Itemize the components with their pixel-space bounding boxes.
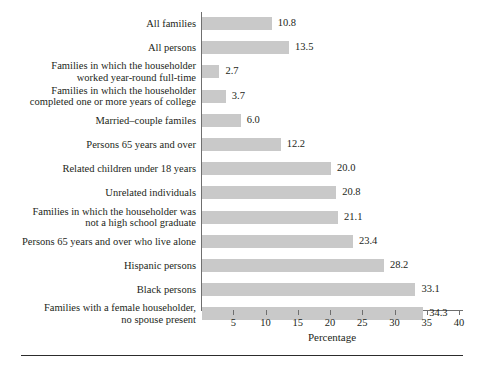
- bar-row: 20.8: [202, 186, 396, 199]
- bar-rect: [202, 17, 272, 30]
- bar-rect: [202, 283, 415, 296]
- x-tick-mark: [233, 310, 234, 315]
- plot-area: 10.813.52.73.76.012.220.020.821.123.428.…: [201, 12, 463, 310]
- x-tick-mark: [330, 310, 331, 315]
- bar-value-label: 28.2: [390, 258, 408, 271]
- category-label: Persons 65 years and over: [0, 139, 196, 151]
- bar-rect: [202, 211, 338, 224]
- bar-row: 20.0: [202, 162, 391, 175]
- x-tick-mark: [266, 310, 267, 315]
- bar-rect: [202, 186, 336, 199]
- x-tick-label: 40: [444, 317, 474, 329]
- category-label: Persons 65 years and over who live alone: [0, 236, 196, 248]
- bar-rect: [202, 41, 289, 54]
- category-axis-labels: All familiesAll personsFamilies in which…: [0, 12, 196, 310]
- category-label: Unrelated individuals: [0, 187, 196, 199]
- bar-row: 23.4: [202, 235, 413, 248]
- bar-row: 6.0: [202, 114, 301, 127]
- bar-rect: [202, 138, 281, 151]
- category-label: Black persons: [0, 284, 196, 296]
- bar-rect: [202, 235, 353, 248]
- bottom-horizontal-rule: [21, 355, 463, 356]
- x-tick-mark: [298, 310, 299, 315]
- bar-rect: [202, 259, 384, 272]
- bar-value-label: 6.0: [247, 113, 260, 126]
- bar-row: 13.5: [202, 41, 349, 54]
- category-label: Families in which the householder comple…: [0, 85, 196, 108]
- x-tick-mark: [362, 310, 363, 315]
- x-tick-label: 30: [380, 317, 410, 329]
- x-tick-label: 35: [412, 317, 442, 329]
- bar-value-label: 2.7: [225, 64, 238, 77]
- bar-value-label: 20.0: [337, 161, 355, 174]
- bar-row: 33.1: [202, 283, 475, 296]
- x-tick-label: 15: [283, 317, 313, 329]
- bar-value-label: 33.1: [421, 282, 439, 295]
- bar-value-label: 21.1: [344, 210, 362, 223]
- x-tick-label: 5: [218, 317, 248, 329]
- bar-rect: [202, 114, 241, 127]
- bar-row: 28.2: [202, 259, 444, 272]
- bar-rect: [202, 90, 226, 103]
- x-tick-label: 20: [315, 317, 345, 329]
- category-label: All persons: [0, 42, 196, 54]
- x-tick-mark: [459, 310, 460, 315]
- bar-row: 2.7: [202, 65, 279, 78]
- bar-value-label: 10.8: [278, 16, 296, 29]
- bar-row: 3.7: [202, 90, 286, 103]
- bar-rect: [202, 162, 331, 175]
- bar-row: 12.2: [202, 138, 341, 151]
- category-label: Related children under 18 years: [0, 163, 196, 175]
- x-tick-mark: [427, 310, 428, 315]
- horizontal-bar-chart: All familiesAll personsFamilies in which…: [0, 0, 486, 370]
- category-label: Hispanic persons: [0, 260, 196, 272]
- bar-row: 21.1: [202, 211, 398, 224]
- bar-row: 10.8: [202, 17, 332, 30]
- category-label: Families in which the householder worked…: [0, 60, 196, 83]
- bar-value-label: 23.4: [359, 234, 377, 247]
- bar-value-label: 13.5: [295, 40, 313, 53]
- bar-value-label: 12.2: [287, 137, 305, 150]
- bar-rect: [202, 65, 219, 78]
- category-label: All families: [0, 18, 196, 30]
- bar-value-label: 20.8: [342, 185, 360, 198]
- x-tick-mark: [395, 310, 396, 315]
- category-label: Married–couple familes: [0, 115, 196, 127]
- x-tick-label: 25: [347, 317, 377, 329]
- x-tick-label: 10: [251, 317, 281, 329]
- bar-value-label: 3.7: [232, 89, 245, 102]
- category-label: Families with a female householder, no s…: [0, 302, 196, 325]
- category-label: Families in which the householder was no…: [0, 206, 196, 229]
- x-axis-title: Percentage: [201, 331, 463, 343]
